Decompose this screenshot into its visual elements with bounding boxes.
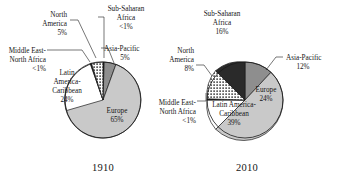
label-1910-latam-line1: Latin bbox=[59, 69, 75, 77]
label-2010-asia-pacific-name: Asia-Pacific bbox=[286, 54, 322, 62]
label-2010-latam-value: 39% bbox=[227, 119, 240, 127]
label-2010-asia-pacific-value: 12% bbox=[296, 63, 309, 71]
year-label-1910: 1910 bbox=[92, 162, 114, 173]
label-2010-mena-line1: Middle East- bbox=[159, 99, 197, 107]
label-2010-sub-saharan-line1: Sub-Saharan bbox=[204, 10, 241, 18]
label-2010-sub-saharan-value: 16% bbox=[215, 28, 228, 36]
charts-svg: North America 5% Sub-Saharan Africa <1% … bbox=[0, 0, 341, 188]
label-1910-asia-pacific-name: Asia-Pacific bbox=[104, 45, 140, 53]
label-2010-north-america-line2: America bbox=[169, 56, 195, 64]
label-1910-europe-name: Europe bbox=[107, 107, 128, 115]
label-1910-latam-value: 24% bbox=[60, 96, 73, 104]
label-1910-north-america-line2: America bbox=[42, 20, 68, 28]
label-2010-europe-name: Europe bbox=[256, 86, 277, 94]
label-1910-sub-saharan-line1: Sub-Saharan bbox=[108, 5, 145, 13]
label-1910-asia-pacific-value: 5% bbox=[120, 54, 130, 62]
label-2010-europe-value: 24% bbox=[259, 95, 272, 103]
year-label-2010: 2010 bbox=[236, 162, 258, 173]
pie-chart-figure: North America 5% Sub-Saharan Africa <1% … bbox=[0, 0, 341, 188]
label-2010-latam-line1: Latin America- bbox=[212, 101, 256, 109]
leader-2010-asia-pacific bbox=[266, 57, 283, 70]
label-1910-europe-value: 65% bbox=[110, 116, 123, 124]
label-2010-sub-saharan-line2: Africa bbox=[213, 19, 232, 27]
label-1910-latam-line2: America- bbox=[53, 78, 81, 86]
label-1910-mena-line2: North Africa bbox=[9, 56, 46, 64]
leader-2010-mena bbox=[197, 93, 206, 101]
label-1910-mena-line1: Middle East- bbox=[9, 47, 47, 55]
leader-2010-north-america bbox=[196, 65, 212, 76]
leader-1910-north-america bbox=[70, 20, 96, 58]
label-2010-north-america-line1: North bbox=[177, 47, 194, 55]
label-1910-north-america-line1: North bbox=[50, 11, 67, 19]
label-1910-mena-value: <1% bbox=[32, 65, 46, 73]
label-2010-latam-line2: Caribbean bbox=[219, 110, 249, 118]
label-1910-sub-saharan-line2: Africa bbox=[117, 14, 136, 22]
label-2010-mena-line2: North Africa bbox=[159, 108, 196, 116]
label-1910-latam-line3: Caribbean bbox=[52, 87, 82, 95]
label-1910-north-america-value: 5% bbox=[57, 29, 67, 37]
leader-1910-mena bbox=[47, 50, 90, 62]
label-2010-north-america-value: 8% bbox=[184, 65, 194, 73]
label-2010-mena-value: <1% bbox=[182, 117, 196, 125]
label-1910-sub-saharan-value: <1% bbox=[119, 23, 133, 31]
pie-1910 bbox=[65, 62, 141, 138]
